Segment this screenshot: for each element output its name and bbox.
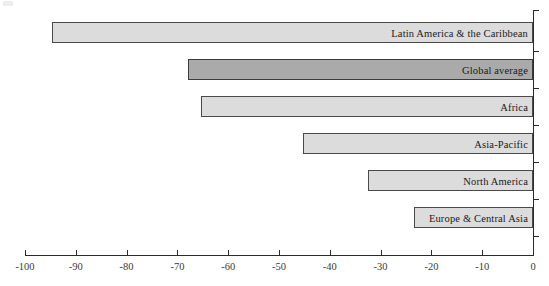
bar-africa[interactable]: Africa [201,96,533,117]
category-tick [533,51,539,52]
value-axis-tick-label: -60 [221,261,235,272]
category-tick [533,125,539,126]
value-axis-tick-label: -100 [15,261,34,272]
value-axis-tick-label: -40 [323,261,337,272]
value-axis-tick [76,250,77,256]
value-axis-tick [330,250,331,256]
bar-label: Africa [500,101,528,112]
category-tick [533,88,539,89]
value-axis-tick-label: -70 [170,261,184,272]
category-tick [533,162,539,163]
value-axis-tick-label: -20 [424,261,438,272]
value-axis-tick-label: -50 [272,261,286,272]
bar-label: Europe & Central Asia [429,212,528,223]
value-axis-tick [533,250,534,256]
zero-axis-line [533,10,534,256]
value-axis-tick [177,250,178,256]
bar-global-average[interactable]: Global average [188,59,533,80]
bar-label: Asia-Pacific [474,138,528,149]
value-axis-tick [25,250,26,256]
bar-label: North America [463,175,528,186]
plot-area: Latin America & the Caribbean Global ave… [0,0,549,256]
value-axis-tick [431,250,432,256]
value-axis-tick [381,250,382,256]
bar-north-america[interactable]: North America [368,170,533,191]
value-axis-tick-label: -90 [69,261,83,272]
category-tick [533,199,539,200]
bar-europe-and-central-asia[interactable]: Europe & Central Asia [414,207,533,228]
category-tick [533,236,539,237]
horizontal-bar-chart: Latin America & the Caribbean Global ave… [0,0,549,286]
bar-asia-pacific[interactable]: Asia-Pacific [303,133,533,154]
value-axis-tick-label: -30 [374,261,388,272]
bar-label: Global average [462,64,528,75]
bar-label: Latin America & the Caribbean [391,27,528,38]
value-axis-tick [279,250,280,256]
value-axis-tick [127,250,128,256]
value-axis-tick [482,250,483,256]
value-axis-tick [228,250,229,256]
value-axis-tick-label: 0 [530,261,535,272]
category-tick [533,10,539,11]
bar-latin-america-and-the-caribbean[interactable]: Latin America & the Caribbean [52,22,533,43]
value-axis-tick-label: -80 [120,261,134,272]
value-axis-tick-label: -10 [475,261,489,272]
